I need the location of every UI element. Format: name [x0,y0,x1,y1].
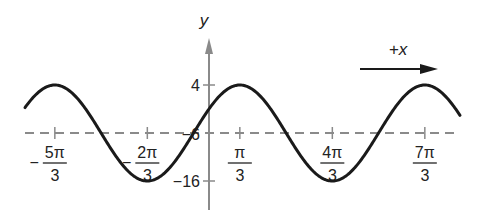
svg-text:π: π [234,144,245,161]
svg-text:7π: 7π [415,144,435,161]
svg-text:3: 3 [50,167,59,184]
y-tick-label-4: 4 [191,77,200,94]
y-axis-label: y [199,11,210,30]
svg-text:−: − [29,154,38,171]
svg-text:4π: 4π [322,144,342,161]
right-arrow-icon [420,64,438,74]
direction-indicator: +x [360,40,438,74]
x-tick-label-4: 7π3 [413,144,437,184]
svg-text:5π: 5π [45,144,65,161]
y-tick-label-neg16: −16 [173,173,200,190]
x-tick-label-0: 5π3− [29,144,66,184]
x-tick-label-2: π3 [228,144,252,184]
svg-text:3: 3 [420,167,429,184]
y-axis-arrow-icon [205,38,213,54]
x-tick-label-1: 2π3− [122,144,159,184]
sine-wave-chart: y 4 −6 −16 5π3−2π3−π34π37π3 +x [0,0,479,218]
svg-text:2π: 2π [137,144,157,161]
svg-text:3: 3 [235,167,244,184]
direction-label: +x [389,40,408,59]
